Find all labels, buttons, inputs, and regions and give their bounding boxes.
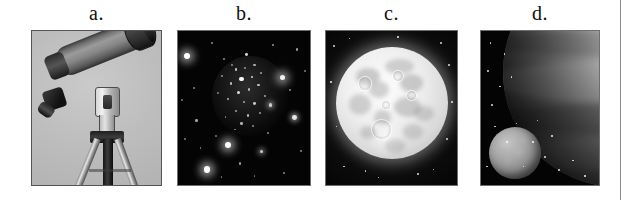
field-star bbox=[184, 53, 190, 59]
lunar-crater bbox=[406, 90, 417, 101]
background-star bbox=[397, 36, 399, 38]
background-star bbox=[330, 81, 332, 83]
background-star bbox=[491, 104, 493, 106]
field-star bbox=[211, 42, 213, 44]
panel-b-frame bbox=[177, 30, 311, 186]
background-star bbox=[572, 160, 574, 162]
cluster-star bbox=[230, 82, 232, 84]
field-star bbox=[181, 99, 183, 101]
background-star bbox=[448, 64, 450, 66]
background-star bbox=[506, 141, 508, 143]
field-star bbox=[272, 44, 274, 46]
lunar-crater bbox=[358, 76, 372, 90]
planet-and-moon-image bbox=[481, 31, 599, 185]
panel-c-label: c. bbox=[325, 0, 458, 26]
lunar-crater bbox=[392, 70, 404, 82]
field-star bbox=[267, 132, 269, 134]
background-star bbox=[433, 169, 435, 171]
lunar-mare bbox=[349, 94, 371, 114]
page-margin-rule bbox=[620, 0, 621, 200]
telescope-photo bbox=[32, 31, 161, 185]
cluster-star bbox=[217, 92, 219, 94]
background-star bbox=[333, 45, 335, 47]
cluster-star bbox=[260, 72, 262, 74]
background-star bbox=[336, 126, 338, 128]
cluster-star bbox=[240, 122, 242, 124]
cluster-star bbox=[264, 95, 266, 97]
cluster-star bbox=[257, 84, 260, 87]
panel-b-label: b. bbox=[177, 0, 311, 26]
background-star bbox=[417, 173, 419, 175]
field-star bbox=[289, 89, 291, 91]
panel-d-label: d. bbox=[480, 0, 600, 26]
field-star bbox=[292, 115, 297, 120]
panel-c-frame bbox=[325, 30, 458, 186]
panel-d: d. bbox=[480, 0, 600, 186]
moon-surface-mottle bbox=[516, 150, 523, 156]
lunar-mare bbox=[385, 139, 405, 152]
field-star bbox=[221, 176, 223, 178]
field-star bbox=[283, 172, 285, 174]
background-star bbox=[440, 42, 442, 44]
cluster-star bbox=[243, 101, 245, 103]
background-star bbox=[584, 175, 586, 177]
tripod-leg-center bbox=[103, 139, 113, 185]
telescope-objective-lens bbox=[139, 31, 157, 43]
field-star bbox=[269, 103, 273, 107]
field-star bbox=[215, 135, 217, 137]
field-star bbox=[195, 119, 197, 121]
background-star bbox=[499, 86, 501, 88]
moon-surface-mottle bbox=[521, 137, 526, 141]
background-star bbox=[349, 38, 351, 40]
background-star bbox=[490, 42, 492, 44]
field-star bbox=[225, 142, 231, 148]
panel-a: a. bbox=[31, 0, 162, 186]
satellite-moon bbox=[489, 127, 541, 179]
telescope-mount-head bbox=[95, 87, 120, 117]
panel-d-frame bbox=[480, 30, 600, 186]
tripod-brace bbox=[89, 169, 131, 172]
field-star bbox=[296, 48, 298, 50]
background-star bbox=[532, 141, 534, 143]
moon-disc bbox=[336, 47, 448, 159]
figure-root: a. b bbox=[0, 0, 626, 200]
cluster-star bbox=[221, 75, 223, 77]
moon-surface-mottle bbox=[505, 159, 511, 164]
lunar-mare bbox=[403, 124, 423, 140]
background-star bbox=[558, 169, 560, 171]
cluster-star bbox=[253, 102, 256, 105]
lunar-mare bbox=[369, 81, 389, 98]
background-star bbox=[451, 101, 453, 103]
panel-a-frame bbox=[31, 30, 162, 186]
cluster-star bbox=[259, 112, 261, 114]
star-cluster-image bbox=[178, 31, 310, 185]
cluster-star bbox=[223, 58, 225, 60]
background-star bbox=[486, 166, 488, 168]
field-star bbox=[300, 150, 302, 152]
field-star bbox=[254, 175, 256, 177]
field-star bbox=[304, 70, 306, 72]
field-star bbox=[280, 75, 285, 80]
cluster-star bbox=[253, 64, 255, 66]
cluster-halo bbox=[212, 56, 289, 136]
field-star bbox=[193, 87, 195, 89]
panel-c: c. bbox=[325, 0, 458, 186]
background-star bbox=[551, 135, 553, 137]
background-star bbox=[494, 126, 496, 128]
background-star bbox=[544, 156, 546, 158]
background-star bbox=[487, 70, 489, 72]
field-star bbox=[239, 162, 241, 164]
field-star bbox=[200, 147, 202, 149]
lunar-mare bbox=[414, 106, 434, 122]
cluster-star bbox=[235, 68, 237, 70]
cluster-star bbox=[239, 77, 243, 81]
cluster-star bbox=[245, 53, 248, 56]
background-star bbox=[446, 138, 448, 140]
field-star bbox=[184, 138, 186, 140]
field-star bbox=[260, 150, 263, 153]
lunar-crater bbox=[381, 100, 391, 110]
full-moon-image bbox=[326, 31, 457, 185]
background-star bbox=[365, 170, 367, 172]
field-star bbox=[204, 166, 210, 172]
background-star bbox=[378, 177, 380, 179]
